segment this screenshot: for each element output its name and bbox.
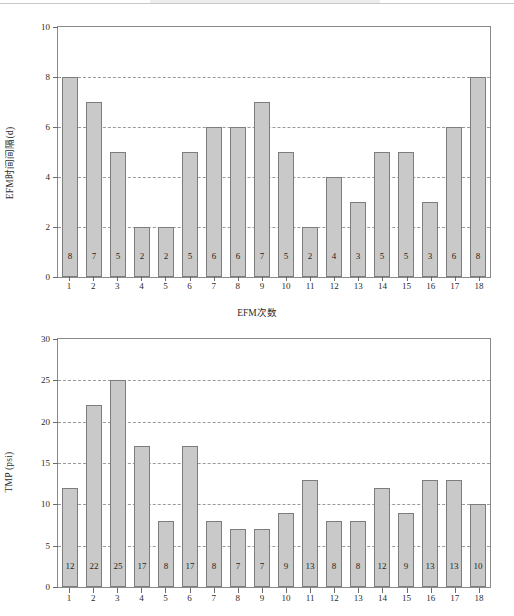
bar-cell: 5 — [394, 27, 418, 277]
bar[interactable]: 8 — [326, 521, 342, 587]
y-tick-label: 6 — [46, 122, 51, 132]
y-tick-label: 25 — [41, 375, 50, 385]
bar[interactable]: 5 — [278, 152, 294, 277]
x-tick: 18 — [467, 593, 491, 603]
x-tick-label: 2 — [91, 281, 96, 291]
bar-cell: 6 — [442, 27, 466, 277]
bar-cell: 17 — [178, 339, 202, 587]
x-tick: 6 — [178, 281, 202, 291]
x-tick: 4 — [129, 593, 153, 603]
bar-cell: 5 — [106, 27, 130, 277]
x-tick: 2 — [81, 593, 105, 603]
x-tick: 12 — [322, 281, 346, 291]
x-tick-mark — [238, 588, 239, 593]
bar-cell: 7 — [82, 27, 106, 277]
bar[interactable]: 13 — [422, 480, 438, 587]
bar[interactable]: 13 — [446, 480, 462, 587]
bar-value-label: 8 — [212, 562, 217, 571]
bar[interactable]: 10 — [470, 504, 486, 587]
bar[interactable]: 17 — [134, 446, 150, 587]
x-tick: 5 — [153, 593, 177, 603]
x-tick: 7 — [202, 593, 226, 603]
bar[interactable]: 7 — [254, 102, 270, 277]
x-tick-mark — [214, 588, 215, 593]
x-tick-mark — [93, 276, 94, 281]
bar[interactable]: 5 — [182, 152, 198, 277]
bar[interactable]: 2 — [158, 227, 174, 277]
x-tick-mark — [117, 588, 118, 593]
x-tick-label: 10 — [282, 593, 291, 603]
bar[interactable]: 3 — [350, 202, 366, 277]
x-tick: 3 — [105, 593, 129, 603]
x-tick-label: 10 — [282, 281, 291, 291]
bar[interactable]: 8 — [62, 77, 78, 277]
bar[interactable]: 7 — [86, 102, 102, 277]
x-tick-label: 16 — [426, 281, 435, 291]
y-tick-label: 10 — [41, 499, 50, 509]
bar[interactable]: 5 — [398, 152, 414, 277]
y-axis-label: EFM时间间隔(d) — [0, 18, 18, 308]
bar[interactable]: 12 — [62, 488, 78, 587]
x-tick-label: 3 — [115, 593, 120, 603]
x-tick-mark — [455, 588, 456, 593]
bar-value-label: 17 — [185, 562, 194, 571]
x-tick-mark — [310, 276, 311, 281]
bar[interactable]: 12 — [374, 488, 390, 587]
bar[interactable]: 9 — [278, 513, 294, 587]
bar[interactable]: 6 — [206, 127, 222, 277]
bar[interactable]: 7 — [230, 529, 246, 587]
bar[interactable]: 6 — [230, 127, 246, 277]
x-axis-ticks: 123456789101112131415161718 — [57, 281, 491, 291]
x-tick-label: 13 — [354, 593, 363, 603]
bar-cell: 5 — [274, 27, 298, 277]
bar-cell: 10 — [466, 339, 490, 587]
bar[interactable]: 22 — [86, 405, 102, 587]
bar[interactable]: 8 — [158, 521, 174, 587]
x-tick: 1 — [57, 593, 81, 603]
bar-cell: 13 — [418, 339, 442, 587]
x-tick-mark — [286, 588, 287, 593]
bar-value-label: 3 — [356, 252, 361, 261]
bar-value-label: 8 — [68, 252, 73, 261]
x-tick: 1 — [57, 281, 81, 291]
bar-value-label: 5 — [116, 252, 121, 261]
bar-cell: 17 — [130, 339, 154, 587]
bar[interactable]: 2 — [134, 227, 150, 277]
x-tick-label: 11 — [306, 281, 315, 291]
bar[interactable]: 25 — [110, 380, 126, 587]
bar[interactable]: 8 — [206, 521, 222, 587]
bar-value-label: 10 — [473, 562, 482, 571]
y-tick-label: 30 — [41, 334, 50, 344]
bar[interactable]: 5 — [110, 152, 126, 277]
bar[interactable]: 4 — [326, 177, 342, 277]
bar-cell: 7 — [226, 339, 250, 587]
plot-area: 0510152025301222251781787791388129131310 — [57, 338, 491, 588]
y-tick-mark — [53, 587, 58, 588]
bar[interactable]: 6 — [446, 127, 462, 277]
x-tick: 17 — [443, 593, 467, 603]
y-tick-label: 0 — [46, 582, 51, 592]
bar[interactable]: 17 — [182, 446, 198, 587]
x-tick-label: 5 — [163, 281, 168, 291]
bar-cell: 8 — [466, 27, 490, 277]
bar[interactable]: 13 — [302, 480, 318, 587]
x-tick-label: 5 — [163, 593, 168, 603]
bar[interactable]: 3 — [422, 202, 438, 277]
x-tick-label: 12 — [330, 281, 339, 291]
bar[interactable]: 8 — [350, 521, 366, 587]
bar[interactable]: 7 — [254, 529, 270, 587]
x-tick-label: 17 — [450, 593, 459, 603]
bar[interactable]: 9 — [398, 513, 414, 587]
bar[interactable]: 5 — [374, 152, 390, 277]
bar[interactable]: 8 — [470, 77, 486, 277]
x-tick: 14 — [370, 281, 394, 291]
bar-value-label: 5 — [380, 252, 385, 261]
x-tick-mark — [141, 276, 142, 281]
x-tick: 10 — [274, 593, 298, 603]
x-tick: 15 — [395, 593, 419, 603]
y-tick-label: 8 — [46, 72, 51, 82]
x-tick-mark — [382, 276, 383, 281]
x-tick-label: 15 — [402, 281, 411, 291]
bar[interactable]: 2 — [302, 227, 318, 277]
x-tick-mark — [382, 588, 383, 593]
